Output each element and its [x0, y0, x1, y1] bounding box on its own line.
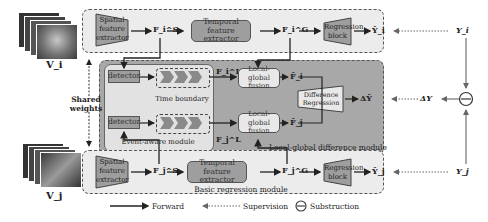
event-aware-module-label: Event-aware module	[118, 138, 198, 147]
regression-block-bottom: Regression block	[324, 164, 351, 182]
legend-supervision: Supervision	[243, 202, 288, 211]
delta-y: ΔY	[420, 93, 432, 103]
local-global-fusion-top: Local-global fusion	[238, 68, 280, 88]
fbar-i-symbol: F̄_i	[290, 71, 303, 81]
legend-forward: Forward	[152, 202, 184, 211]
label-yj: Y_j	[456, 166, 469, 176]
fl-j-symbol: F_j^L	[216, 134, 241, 144]
fg-j-symbol: F_j^G	[282, 165, 308, 175]
delta-prediction: ΔŶ	[360, 93, 372, 103]
local-global-fusion-bottom: Local-global fusion	[238, 113, 280, 133]
spatial-feature-extractor-bottom: Spatial feature extractor	[96, 158, 128, 185]
local-global-difference-module-label: Local-global difference module	[268, 143, 388, 152]
prediction-j: Ŷ_j	[372, 166, 385, 176]
label-yi: Y_i	[456, 25, 469, 35]
detector-top: detector	[108, 70, 140, 83]
spatial-feature-extractor-top: Spatial feature extractor	[96, 16, 128, 43]
time-boundary-label: Time boundary	[150, 95, 214, 104]
temporal-feature-extractor-top: Temporal feature extractor	[191, 20, 251, 42]
basic-regression-module-label: Basic regression module	[186, 185, 296, 194]
fs-j-symbol: F_j^S	[153, 165, 178, 175]
difference-regression: Difference Regression	[300, 91, 342, 107]
prediction-i: Ŷ_i	[372, 25, 385, 35]
regression-block-top: Regression block	[324, 23, 351, 41]
fbar-j-symbol: F̄_j	[290, 117, 303, 127]
diagram-canvas: V_i V_j Shared weights	[0, 0, 488, 222]
temporal-feature-extractor-bottom: Temporal feature extractor	[187, 161, 247, 183]
legend-subtraction: Substruction	[310, 202, 359, 211]
fg-i-symbol: F_i^G	[282, 24, 308, 34]
detector-bottom: detector	[108, 116, 140, 129]
time-boundary-sequence-top	[156, 68, 210, 88]
fs-i-symbol: F_i^S	[153, 24, 178, 34]
time-boundary-sequence-bottom	[156, 114, 210, 134]
